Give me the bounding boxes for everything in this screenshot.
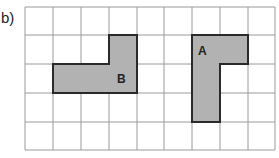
grid-diagram: BA (0, 0, 279, 158)
shape-label: A (198, 44, 207, 58)
shape-a: A (192, 35, 248, 122)
shape-b: B (53, 35, 137, 93)
shape-label: B (117, 72, 126, 86)
